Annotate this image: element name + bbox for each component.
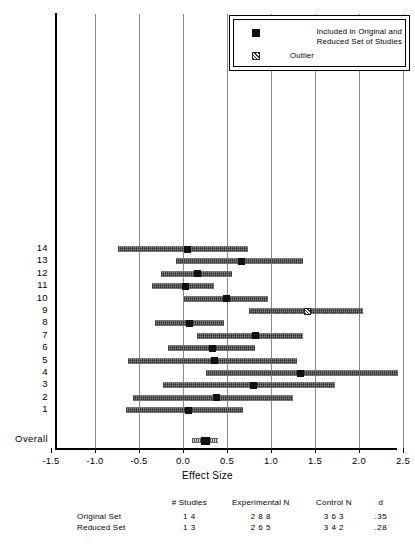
summary-row-studies: 1 3 (158, 522, 220, 533)
x-tick (227, 448, 228, 453)
study-label-5: 5 (4, 354, 48, 365)
effect-size-marker-3 (250, 382, 257, 389)
outlier-marker-9 (304, 308, 311, 315)
x-tick (403, 448, 404, 453)
summary-header-d: d (367, 498, 395, 511)
summary-row-studies: 1 4 (158, 511, 220, 522)
study-label-3: 3 (4, 378, 48, 389)
effect-size-marker-12 (194, 270, 201, 277)
x-tick-label: -0.5 (119, 455, 159, 466)
summary-row-control-n: 3 6 3 (301, 511, 366, 522)
study-label-8: 8 (4, 316, 48, 327)
summary-row-control-n: 3 4 2 (301, 522, 366, 533)
effect-size-marker-4 (297, 370, 304, 377)
study-label-9: 9 (4, 304, 48, 315)
effect-size-marker-10 (223, 295, 230, 302)
x-tick (271, 448, 272, 453)
summary-row-experimental-n: 2 6 5 (220, 522, 301, 533)
table-row: Original Set 1 4 2 8 8 3 6 3 .35 (55, 511, 395, 522)
effect-size-marker-13 (238, 258, 245, 265)
legend-box: Included in Original and Reduced Set of … (229, 15, 410, 71)
effect-size-marker-8 (186, 320, 193, 327)
summary-header-experimental-n: Experimental N (220, 498, 301, 511)
x-tick-label: 0.0 (163, 455, 203, 466)
effect-size-marker-14 (184, 246, 191, 253)
x-tick-label: -1.0 (75, 455, 115, 466)
gridline-2.5 (403, 14, 404, 449)
summary-row-d: .35 (367, 511, 395, 522)
x-tick (95, 448, 96, 453)
summary-table-wrapper: # Studies Experimental N Control N d Ori… (0, 498, 415, 533)
x-axis-title: Effect Size (0, 470, 415, 481)
x-axis-line (55, 448, 397, 450)
gridline--0.5 (139, 14, 140, 449)
summary-row-name: Original Set (55, 511, 158, 522)
effect-size-marker-6 (209, 345, 216, 352)
study-label-10: 10 (4, 292, 48, 303)
x-tick-label: 2.5 (383, 455, 415, 466)
summary-header-row: # Studies Experimental N Control N d (55, 498, 395, 511)
legend-label-included: Included in Original and Reduced Set of … (290, 27, 402, 47)
filled-square-icon (252, 29, 260, 37)
study-label-2: 2 (4, 391, 48, 402)
x-tick-label: -1.5 (31, 455, 71, 466)
x-tick (51, 448, 52, 453)
x-tick-label: 1.0 (251, 455, 291, 466)
study-label-4: 4 (4, 366, 48, 377)
study-label-14: 14 (4, 242, 48, 253)
x-tick (139, 448, 140, 453)
effect-size-marker-7 (252, 332, 259, 339)
overall-label: Overall (0, 433, 48, 444)
x-tick-label: 1.5 (295, 455, 335, 466)
summary-header-control-n: Control N (301, 498, 366, 511)
forest-plot-figure: -1.5-1.0-0.50.00.51.01.52.02.5 Effect Si… (0, 0, 415, 555)
x-tick (315, 448, 316, 453)
confidence-interval-bar-7 (197, 333, 303, 339)
gridline-2.0 (359, 14, 360, 449)
effect-size-marker-5 (211, 357, 218, 364)
overall-effect-size-marker (201, 437, 210, 445)
x-tick (359, 448, 360, 453)
x-tick-label: 2.0 (339, 455, 379, 466)
summary-row-d: .28 (367, 522, 395, 533)
summary-row-experimental-n: 2 8 8 (220, 511, 301, 522)
y-axis-line (55, 13, 57, 450)
study-label-6: 6 (4, 341, 48, 352)
gridline--1.0 (95, 14, 96, 449)
study-label-11: 11 (4, 279, 48, 290)
study-label-12: 12 (4, 267, 48, 278)
study-label-7: 7 (4, 329, 48, 340)
summary-table: # Studies Experimental N Control N d Ori… (55, 498, 395, 533)
effect-size-marker-2 (213, 394, 220, 401)
x-tick-label: 0.5 (207, 455, 247, 466)
table-row: Reduced Set 1 3 2 6 5 3 4 2 .28 (55, 522, 395, 533)
summary-header-blank (55, 498, 158, 511)
effect-size-marker-1 (185, 407, 192, 414)
x-tick (183, 448, 184, 453)
hatched-square-icon (252, 52, 260, 60)
summary-row-name: Reduced Set (55, 522, 158, 533)
legend-label-outlier: Outlier (290, 51, 390, 61)
study-label-1: 1 (4, 403, 48, 414)
effect-size-marker-11 (182, 283, 189, 290)
study-label-13: 13 (4, 254, 48, 265)
summary-header-studies: # Studies (158, 498, 220, 511)
